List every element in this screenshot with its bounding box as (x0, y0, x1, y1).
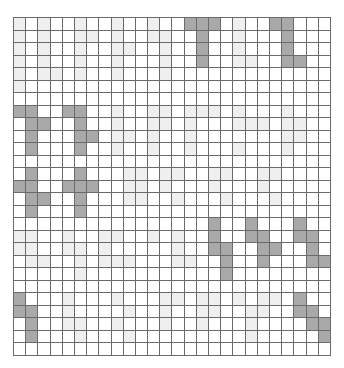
grid-cell-empty[interactable] (185, 193, 197, 206)
grid-cell-empty[interactable] (136, 131, 148, 144)
grid-cell-empty[interactable] (136, 231, 148, 244)
grid-cell-empty[interactable] (99, 343, 111, 356)
grid-cell-empty[interactable] (185, 218, 197, 231)
grid-cell-empty[interactable] (258, 43, 270, 56)
grid-cell-ghost[interactable] (197, 106, 209, 119)
grid-cell-empty[interactable] (99, 56, 111, 69)
grid-cell-empty[interactable] (148, 218, 160, 231)
grid-cell-empty[interactable] (221, 68, 233, 81)
grid-cell-ghost[interactable] (233, 293, 245, 306)
grid-cell-empty[interactable] (246, 268, 258, 281)
grid-cell-empty[interactable] (148, 168, 160, 181)
grid-cell-empty[interactable] (185, 318, 197, 331)
grid-cell-ghost[interactable] (112, 231, 124, 244)
grid-cell-alive[interactable] (197, 18, 209, 31)
grid-cell-alive[interactable] (197, 56, 209, 69)
grid-cell-empty[interactable] (221, 306, 233, 319)
grid-cell-empty[interactable] (99, 106, 111, 119)
grid-cell-empty[interactable] (185, 268, 197, 281)
grid-cell-empty[interactable] (136, 156, 148, 169)
grid-cell-alive[interactable] (319, 256, 331, 269)
grid-cell-empty[interactable] (172, 56, 184, 69)
grid-cell-alive[interactable] (209, 231, 221, 244)
grid-cell-empty[interactable] (136, 293, 148, 306)
grid-cell-ghost[interactable] (270, 193, 282, 206)
grid-cell-empty[interactable] (319, 206, 331, 219)
grid-cell-empty[interactable] (124, 31, 136, 44)
grid-cell-ghost[interactable] (112, 118, 124, 131)
grid-cell-alive[interactable] (26, 106, 38, 119)
grid-cell-empty[interactable] (99, 31, 111, 44)
grid-cell-ghost[interactable] (75, 31, 87, 44)
grid-cell-ghost[interactable] (160, 106, 172, 119)
grid-cell-empty[interactable] (319, 281, 331, 294)
grid-cell-empty[interactable] (233, 156, 245, 169)
grid-cell-empty[interactable] (63, 131, 75, 144)
grid-cell-empty[interactable] (307, 218, 319, 231)
grid-cell-empty[interactable] (246, 243, 258, 256)
grid-cell-empty[interactable] (319, 343, 331, 356)
grid-cell-empty[interactable] (148, 243, 160, 256)
grid-cell-empty[interactable] (51, 93, 63, 106)
grid-cell-empty[interactable] (51, 206, 63, 219)
grid-cell-ghost[interactable] (124, 306, 136, 319)
grid-cell-empty[interactable] (160, 331, 172, 344)
grid-cell-alive[interactable] (26, 118, 38, 131)
grid-cell-empty[interactable] (99, 193, 111, 206)
grid-cell-empty[interactable] (209, 318, 221, 331)
grid-cell-empty[interactable] (51, 318, 63, 331)
grid-cell-ghost[interactable] (112, 131, 124, 144)
grid-cell-empty[interactable] (87, 118, 99, 131)
grid-cell-alive[interactable] (282, 31, 294, 44)
grid-cell-empty[interactable] (160, 93, 172, 106)
grid-cell-alive[interactable] (294, 306, 306, 319)
grid-cell-empty[interactable] (319, 181, 331, 194)
grid-cell-alive[interactable] (38, 118, 50, 131)
grid-cell-empty[interactable] (172, 118, 184, 131)
grid-cell-empty[interactable] (26, 343, 38, 356)
grid-cell-empty[interactable] (221, 281, 233, 294)
grid-cell-empty[interactable] (160, 156, 172, 169)
grid-cell-empty[interactable] (307, 168, 319, 181)
grid-cell-empty[interactable] (26, 281, 38, 294)
grid-cell-ghost[interactable] (26, 256, 38, 269)
grid-cell-empty[interactable] (319, 193, 331, 206)
grid-cell-empty[interactable] (87, 231, 99, 244)
grid-cell-empty[interactable] (148, 318, 160, 331)
grid-cell-empty[interactable] (197, 193, 209, 206)
grid-cell-alive[interactable] (221, 243, 233, 256)
grid-cell-ghost[interactable] (112, 256, 124, 269)
grid-cell-empty[interactable] (14, 343, 26, 356)
grid-cell-ghost[interactable] (136, 168, 148, 181)
grid-cell-empty[interactable] (246, 131, 258, 144)
grid-cell-empty[interactable] (14, 193, 26, 206)
grid-cell-empty[interactable] (38, 81, 50, 94)
grid-cell-empty[interactable] (197, 118, 209, 131)
grid-cell-alive[interactable] (75, 106, 87, 119)
grid-cell-ghost[interactable] (160, 68, 172, 81)
grid-cell-ghost[interactable] (75, 68, 87, 81)
grid-cell-empty[interactable] (185, 206, 197, 219)
grid-cell-empty[interactable] (14, 93, 26, 106)
grid-cell-empty[interactable] (197, 231, 209, 244)
grid-cell-empty[interactable] (14, 256, 26, 269)
grid-cell-empty[interactable] (270, 218, 282, 231)
grid-cell-empty[interactable] (136, 118, 148, 131)
grid-cell-empty[interactable] (112, 343, 124, 356)
grid-cell-empty[interactable] (294, 343, 306, 356)
grid-cell-alive[interactable] (294, 218, 306, 231)
grid-cell-empty[interactable] (63, 43, 75, 56)
grid-cell-empty[interactable] (233, 181, 245, 194)
grid-cell-empty[interactable] (63, 218, 75, 231)
grid-cell-empty[interactable] (51, 343, 63, 356)
grid-cell-empty[interactable] (136, 243, 148, 256)
grid-cell-empty[interactable] (197, 156, 209, 169)
grid-cell-empty[interactable] (270, 118, 282, 131)
grid-cell-empty[interactable] (99, 118, 111, 131)
grid-cell-ghost[interactable] (160, 168, 172, 181)
grid-cell-empty[interactable] (63, 68, 75, 81)
grid-cell-empty[interactable] (221, 156, 233, 169)
grid-cell-ghost[interactable] (148, 31, 160, 44)
grid-cell-empty[interactable] (221, 43, 233, 56)
grid-cell-empty[interactable] (307, 268, 319, 281)
